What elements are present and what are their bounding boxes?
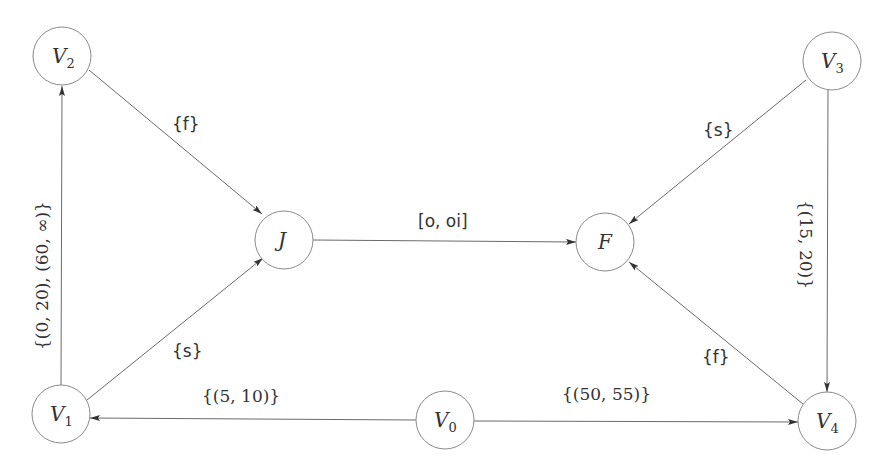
- edge-label-v3-f: {s}: [703, 120, 734, 140]
- edge-v3-v4: {(15, 20)}: [796, 90, 828, 392]
- edge-v0-v4: {(50, 55)}: [474, 384, 798, 422]
- edge-label-v3-v4: {(15, 20)}: [796, 200, 816, 289]
- node-v3: V3: [803, 32, 861, 90]
- node-f: F: [576, 213, 634, 271]
- edge-label-v1-v2: {(0, 20), (60, ∞)}: [32, 201, 52, 350]
- edge-label-j-f: [o, oi]: [418, 211, 468, 231]
- edge-v4-f: {f}: [629, 262, 803, 404]
- node-v1: V1: [32, 385, 90, 443]
- constraint-graph: {(0, 20), (60, ∞)} {f} {s} [o, oi] {s} {…: [0, 0, 885, 467]
- edge-v0-v1: {(5, 10)}: [90, 386, 416, 420]
- edge-v2-j: {f}: [89, 70, 262, 214]
- node-v4: V4: [798, 392, 856, 450]
- edge-label-v0-v1: {(5, 10)}: [202, 386, 280, 406]
- svg-text:F: F: [597, 230, 613, 254]
- edge-j-f: [o, oi]: [313, 211, 576, 242]
- edge-label-v4-f: {f}: [702, 347, 730, 367]
- node-v2: V2: [33, 27, 91, 85]
- edge-label-v1-j: {s}: [172, 341, 203, 361]
- edge-v1-v2: {(0, 20), (60, ∞)}: [32, 86, 62, 385]
- edge-v3-f: {s}: [629, 80, 806, 224]
- edge-v1-j: {s}: [87, 258, 263, 400]
- edge-label-v0-v4: {(50, 55)}: [562, 384, 651, 404]
- node-j: J: [255, 211, 313, 269]
- node-v0: V0: [416, 391, 474, 449]
- edge-label-v2-j: {f}: [172, 114, 200, 134]
